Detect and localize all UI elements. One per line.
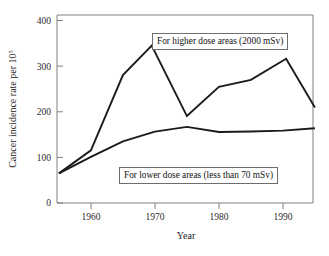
x-axis-title: Year	[177, 230, 196, 241]
x-tick-label-1960: 1960	[82, 212, 101, 222]
annotation-lower-dose: For lower dose areas (less than 70 mSv)	[119, 167, 278, 184]
y-axis-title: Cancer incidence rate per 105	[7, 50, 19, 168]
x-tick-label-1980: 1980	[210, 212, 229, 222]
annotation-higher-dose: For higher dose areas (2000 mSv)	[152, 33, 288, 50]
y-tick-label-100: 100	[37, 153, 52, 163]
y-tick-label-400: 400	[37, 16, 52, 26]
y-tick-label-0: 0	[46, 198, 51, 208]
y-axis-title-superscript: 5	[7, 50, 14, 53]
y-axis-title-main: Cancer incidence rate per 10	[7, 53, 18, 167]
chart-figure: 400 300 200 100 0 1960 1970 1980 1990 Ye…	[0, 0, 329, 256]
x-tick-label-1990: 1990	[274, 212, 293, 222]
y-axis-title-group: Cancer incidence rate per 105	[7, 50, 19, 168]
y-tick-label-300: 300	[37, 62, 52, 72]
x-tick-label-1970: 1970	[146, 212, 165, 222]
y-tick-label-200: 200	[37, 107, 52, 117]
